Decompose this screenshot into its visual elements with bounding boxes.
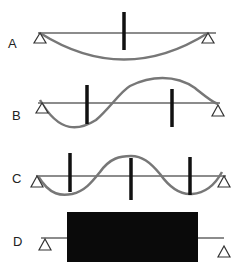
mode-shape-diagram: A B C D [0,0,242,276]
panel-label-c: C [12,171,21,186]
filled-block [67,212,198,262]
panel-b: B [12,78,224,127]
panel-label-d: D [13,234,22,249]
pin-support-icon [212,105,224,116]
pin-support-icon [39,239,51,250]
panel-a: A [8,12,216,60]
pin-support-icon [218,246,230,257]
panel-label-b: B [12,108,21,123]
panel-label-a: A [8,36,17,51]
panel-d: D [13,212,230,262]
panel-c: C [12,153,230,200]
